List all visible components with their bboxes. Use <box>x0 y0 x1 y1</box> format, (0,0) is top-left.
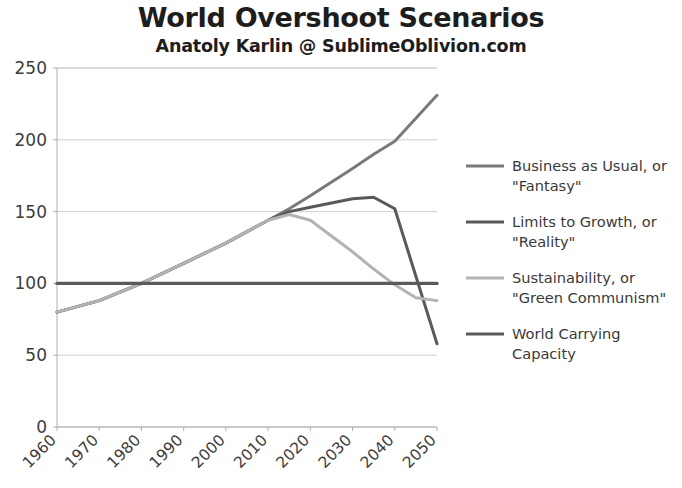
axis-lines <box>53 68 437 431</box>
x-axis-tick-label: 2000 <box>188 431 229 472</box>
x-axis-tick-label: 1970 <box>61 431 102 472</box>
legend-label: Capacity <box>512 345 576 362</box>
x-axis-tick-label: 2050 <box>399 431 440 472</box>
legend-label: World Carrying <box>512 325 621 342</box>
x-axis-tick-label: 1980 <box>104 431 145 472</box>
legend-label: "Green Communism" <box>512 289 666 306</box>
x-axis-tick-label: 1960 <box>19 431 60 472</box>
y-axis-tick-labels: 250200150100500 <box>15 58 47 437</box>
x-axis-tick-label: 2030 <box>315 431 356 472</box>
legend-label: "Reality" <box>512 233 575 250</box>
legend-label: Sustainability, or <box>512 269 635 286</box>
y-axis-tick-label: 250 <box>15 58 47 78</box>
y-axis-tick-label: 200 <box>15 130 47 150</box>
y-axis-tick-label: 50 <box>25 345 47 365</box>
gridlines <box>57 68 437 427</box>
x-axis-tick-label: 1990 <box>146 431 187 472</box>
legend-label: Business as Usual, or <box>512 157 667 174</box>
legend-label: Limits to Growth, or <box>512 213 657 230</box>
chart-legend: Business as Usual, or"Fantasy"Limits to … <box>466 157 667 362</box>
x-axis-tick-label: 2010 <box>230 431 271 472</box>
chart-container: World Overshoot Scenarios Anatoly Karlin… <box>0 0 682 488</box>
y-axis-tick-label: 150 <box>15 202 47 222</box>
series-line <box>57 95 437 312</box>
x-axis-tick-labels: 1960197019801990200020102020203020402050 <box>19 431 440 472</box>
x-axis-tick-label: 2020 <box>273 431 314 472</box>
data-series <box>57 95 437 343</box>
legend-label: "Fantasy" <box>512 177 582 194</box>
x-axis-tick-label: 2040 <box>357 431 398 472</box>
chart-plot: 250200150100500 196019701980199020002010… <box>0 0 682 488</box>
series-line <box>57 197 437 343</box>
y-axis-tick-label: 100 <box>15 273 47 293</box>
series-line <box>57 214 437 312</box>
